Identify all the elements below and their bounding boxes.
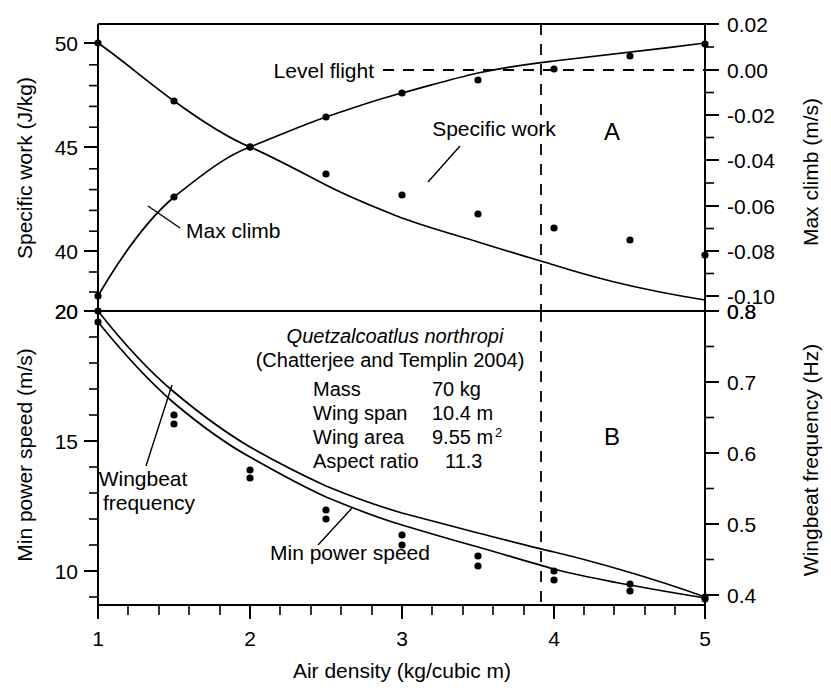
- min-power-speed-leader-line: [318, 508, 352, 545]
- panel-b-left-axis-title: Min power speed (m/s): [13, 348, 36, 562]
- info-row-label-wing-area: Wing area: [313, 426, 405, 448]
- panel-a-y2tick-000: 0.00: [727, 59, 768, 82]
- panel-b-y2tick-06: 0.6: [727, 442, 756, 465]
- panel-a-right-ticks: [705, 24, 719, 311]
- wingbeat-frequency-label-line1: Wingbeat: [99, 467, 188, 490]
- panel-a-y2tick-n006: -0.06: [727, 195, 775, 218]
- info-row-label-mass: Mass: [313, 378, 361, 400]
- specific-work-curve: [98, 43, 705, 300]
- panel-b-right-ticks: [705, 311, 719, 595]
- wingbeat-frequency-label-line2: frequency: [103, 491, 196, 514]
- panel-a-ytick-40: 40: [55, 240, 78, 263]
- panel-b-label: B: [604, 423, 620, 450]
- panel-a-left-axis-title: Specific work (J/kg): [13, 77, 36, 259]
- max-climb-curve: [98, 43, 705, 296]
- panel-b-y2tick-08: 0.8: [727, 300, 756, 323]
- info-box: Quetzalcoatlus northropi (Chatterjee and…: [256, 325, 525, 472]
- panel-a-y2tick-n008: -0.08: [727, 240, 775, 263]
- info-row-label-aspect-ratio: Aspect ratio: [313, 450, 419, 472]
- panel-b-ytick-10: 10: [55, 560, 78, 583]
- panel-a-left-ticks: [84, 43, 98, 311]
- panel-b-left-ticks: [84, 311, 98, 597]
- panel-a-y2tick-002: 0.02: [727, 13, 768, 36]
- info-row-value-wing-span: 10.4 m: [432, 402, 493, 424]
- xtick-5: 5: [699, 627, 711, 650]
- panel-a-right-axis-title: Max climb (m/s): [799, 98, 822, 246]
- xtick-3: 3: [396, 627, 408, 650]
- panel-b-y2tick-05: 0.5: [727, 513, 756, 536]
- specific-work-leader-line: [428, 146, 460, 182]
- panel-a-y2tick-n002: -0.02: [727, 104, 775, 127]
- figure-root: 50 45 40 20 Specific work (J/kg) 0.02 0.…: [0, 0, 831, 690]
- min-power-speed-label: Min power speed: [270, 541, 430, 564]
- x-axis-title: Air density (kg/cubic m): [293, 659, 511, 682]
- specific-work-label: Specific work: [432, 117, 556, 140]
- xtick-4: 4: [548, 627, 560, 650]
- level-flight-label: Level flight: [274, 59, 375, 82]
- panel-a-y2tick-n004: -0.04: [727, 149, 775, 172]
- panel-b-y2tick-07: 0.7: [727, 371, 756, 394]
- info-row-value-aspect-ratio: 11.3: [445, 450, 482, 472]
- panel-b-ytick-20: 20: [55, 300, 78, 323]
- panel-b-right-axis-title: Wingbeat frequency (Hz): [799, 344, 822, 576]
- info-row-value-wing-area-superscript: 2: [495, 425, 502, 440]
- panel-b-ytick-15: 15: [55, 430, 78, 453]
- panel-a-ytick-45: 45: [55, 136, 78, 159]
- panel-a-axes: [98, 24, 705, 311]
- panel-a-ytick-50: 50: [55, 32, 78, 55]
- info-citation: (Chatterjee and Templin 2004): [256, 349, 525, 371]
- max-climb-label: Max climb: [186, 219, 281, 242]
- info-species-name: Quetzalcoatlus northropi: [287, 325, 504, 347]
- xtick-2: 2: [244, 627, 256, 650]
- info-row-value-mass: 70 kg: [432, 378, 481, 400]
- x-axis-ticks: [98, 605, 705, 619]
- max-climb-points: [94, 40, 708, 299]
- info-row-value-wing-area: 9.55 m: [432, 426, 493, 448]
- info-row-label-wing-span: Wing span: [313, 402, 408, 424]
- xtick-1: 1: [92, 627, 104, 650]
- panel-a-label: A: [604, 118, 620, 145]
- panel-b-y2tick-04: 0.4: [727, 584, 757, 607]
